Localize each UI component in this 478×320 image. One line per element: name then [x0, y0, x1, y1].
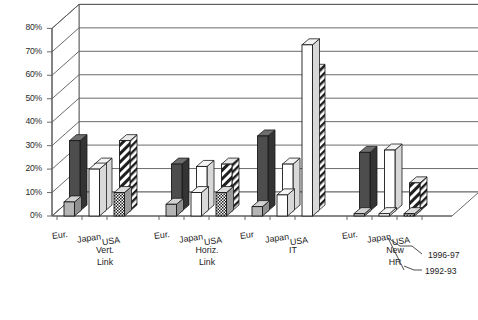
x-group-label-2-line0: IT	[271, 245, 315, 255]
bar-HorizLink-USA-1992-93	[216, 187, 234, 216]
y-axis-tick-0: 0%	[10, 210, 42, 220]
chart-3d-frame	[0, 0, 478, 320]
x-group-label-3-line1: HR	[373, 257, 417, 267]
x-group-label-1-line1: Link	[185, 257, 229, 267]
y-axis-tick-80: 80%	[10, 22, 42, 32]
bar-IT-Japan-1992-93	[277, 189, 295, 216]
y-axis-tick-50: 50%	[10, 93, 42, 103]
bar-NewHR-Japan-1996-97	[385, 144, 403, 211]
y-axis-tick-10: 10%	[10, 187, 42, 197]
x-group-label-3-line0: New	[373, 245, 417, 255]
x-label-g0-Eur: Eur.	[51, 229, 68, 241]
x-group-label-0-line1: Link	[83, 257, 127, 267]
x-label-g2-Eur: Eur	[239, 229, 254, 241]
x-group-label-1-line0: Horiz.	[185, 245, 229, 255]
y-axis-tick-70: 70%	[10, 46, 42, 56]
x-label-g1-Eur: Eur.	[153, 229, 170, 241]
legend-label-1996-97: 1996-97	[428, 250, 460, 260]
x-group-label-0-line0: Vert.	[83, 245, 127, 255]
bar-VertLink-USA-1992-93	[114, 187, 132, 216]
y-axis-tick-20: 20%	[10, 163, 42, 173]
bar-VertLink-Japan-1992-93	[89, 163, 107, 216]
bar-IT-USA-1992-93	[302, 39, 320, 216]
bar-NewHR-USA-1996-97	[410, 177, 428, 211]
bar-HorizLink-Japan-1992-93	[191, 187, 209, 216]
legend-label-1992-93: 1992-93	[425, 266, 457, 276]
bar-NewHR-Eur-1996-97	[360, 146, 378, 211]
y-axis-tick-60: 60%	[10, 69, 42, 79]
y-axis-tick-40: 40%	[10, 116, 42, 126]
x-label-g3-Eur: Eur.	[341, 229, 358, 241]
bar-IT-Eur-1996-97	[258, 130, 276, 211]
chart-canvas: 0%10%20%30%40%50%60%70%80% Eur.JapanUSAV…	[0, 0, 478, 320]
y-axis-tick-30: 30%	[10, 140, 42, 150]
